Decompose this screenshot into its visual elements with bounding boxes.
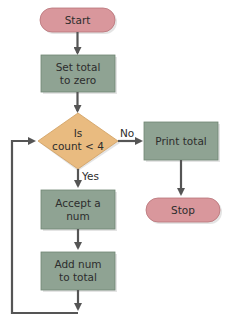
no-label: No — [120, 127, 134, 139]
add-line1: Add num — [54, 258, 101, 270]
set-total-process: Set total to zero — [41, 55, 117, 94]
accept-line1: Accept a — [55, 197, 101, 209]
decision-diamond: Is count < 4 — [38, 113, 120, 171]
add-line2: to total — [59, 271, 97, 283]
decision-line1: Is — [74, 127, 83, 139]
stop-label: Stop — [171, 204, 195, 216]
start-label: Start — [65, 14, 91, 26]
set-total-line1: Set total — [56, 61, 101, 73]
print-total-label: Print total — [155, 135, 207, 147]
start-terminal: Start — [40, 8, 117, 34]
accept-process: Accept a num — [41, 190, 117, 231]
print-total-process: Print total — [144, 122, 220, 162]
stop-terminal: Stop — [146, 198, 222, 224]
add-process: Add num to total — [41, 252, 117, 292]
decision-line2: count < 4 — [52, 140, 104, 152]
set-total-line2: to zero — [60, 74, 96, 86]
flowchart: Start Set total to zero Is count < 4 No … — [0, 0, 228, 324]
yes-label: Yes — [81, 170, 99, 182]
accept-line2: num — [66, 210, 90, 222]
